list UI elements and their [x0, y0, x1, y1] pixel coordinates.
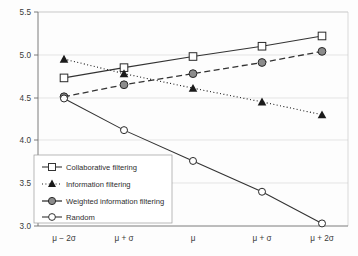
open-circle-marker — [259, 188, 266, 195]
y-tick-label-4.0: 4.0 — [20, 136, 32, 145]
y-tick-label-5.0: 5.0 — [20, 51, 32, 60]
x-tick-label-4: μ + 2σ — [310, 234, 334, 243]
filled-circle-marker — [120, 81, 128, 89]
open-circle-icon — [49, 214, 56, 221]
open-circle-marker — [319, 220, 326, 227]
x-tick-label-3: μ + σ — [252, 234, 271, 243]
open-circle-marker — [190, 157, 197, 164]
y-tick-label-4.5: 4.5 — [20, 94, 32, 103]
legend-label-weighted: Weighted information filtering — [66, 197, 164, 206]
legend: Collaborative filtering Information filt… — [34, 155, 172, 223]
open-circle-marker — [121, 127, 128, 134]
filled-triangle-marker — [258, 98, 267, 106]
chart-figure: 5.5 5.0 4.5 4.0 3.5 3.0 μ − 2σ μ + σ μ μ… — [0, 0, 358, 256]
filled-circle-icon — [48, 197, 55, 204]
open-circle-marker — [61, 95, 68, 102]
filled-circle-marker — [318, 47, 326, 55]
y-tick-label-5.5: 5.5 — [20, 8, 32, 17]
filled-circle-marker — [189, 70, 197, 78]
y-tick-label-3.0: 3.0 — [20, 222, 32, 231]
series-information-filtering — [60, 55, 327, 119]
y-tick-label-3.5: 3.5 — [20, 179, 32, 188]
x-axis: μ − 2σ μ + σ μ μ + σ μ + 2σ — [38, 226, 348, 243]
filled-triangle-marker — [318, 110, 327, 118]
x-tick-label-0: μ − 2σ — [52, 234, 76, 243]
open-square-icon — [49, 164, 56, 171]
line-chart: 5.5 5.0 4.5 4.0 3.5 3.0 μ − 2σ μ + σ μ μ… — [0, 0, 358, 256]
open-square-marker — [318, 32, 326, 40]
x-tick-label-1: μ + σ — [114, 234, 133, 243]
legend-label-collaborative: Collaborative filtering — [66, 163, 137, 172]
x-tick-label-2: μ — [191, 234, 196, 243]
open-square-marker — [189, 53, 197, 61]
open-square-marker — [60, 74, 68, 82]
open-square-marker — [258, 42, 266, 50]
legend-label-random: Random — [66, 213, 95, 222]
filled-circle-marker — [258, 59, 266, 67]
legend-label-information: Information filtering — [66, 180, 131, 189]
filled-triangle-marker — [60, 55, 69, 63]
